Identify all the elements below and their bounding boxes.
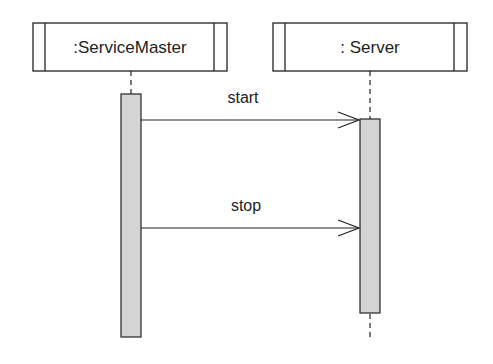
message-label-start: start [227, 89, 259, 106]
message-start: start [141, 89, 359, 128]
participant-server: : Server [273, 23, 467, 71]
participant-label-servicemaster: :ServiceMaster [73, 38, 187, 57]
message-label-stop: stop [231, 197, 261, 214]
activation-bar-server [360, 119, 380, 313]
participant-servicemaster: :ServiceMaster [33, 23, 227, 71]
participant-label-server: : Server [340, 38, 400, 57]
message-stop: stop [141, 197, 359, 236]
activation-bar-servicemaster [121, 94, 141, 337]
sequence-diagram: :ServiceMaster : Server start stop [0, 0, 493, 364]
